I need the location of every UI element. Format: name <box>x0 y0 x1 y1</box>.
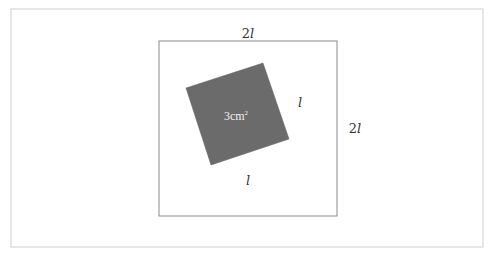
large-square-right-label: 2l <box>349 121 361 136</box>
large-square-top-label: 2l <box>242 26 254 41</box>
label-coef: 2 <box>349 121 357 136</box>
area-value: 3cm <box>224 109 245 123</box>
label-var: l <box>250 26 254 41</box>
diagram-canvas: 2l 2l l l 3cm2 <box>0 0 493 262</box>
area-exponent: 2 <box>245 109 249 117</box>
small-square-right-side-label: l <box>298 95 302 110</box>
label-var: l <box>357 121 361 136</box>
small-square-bottom-side-label: l <box>246 173 250 188</box>
label-coef: 2 <box>242 26 250 41</box>
